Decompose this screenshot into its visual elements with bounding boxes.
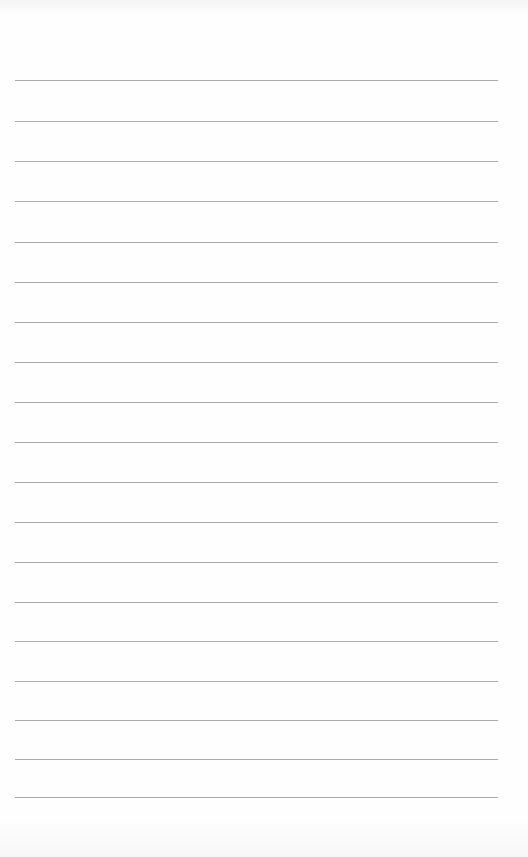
- ruled-line: [15, 482, 498, 483]
- ruled-line: [15, 322, 498, 323]
- ruled-line: [15, 402, 498, 403]
- ruled-line: [15, 797, 498, 798]
- ruled-line: [15, 80, 498, 81]
- ruled-line: [15, 161, 498, 162]
- ruled-line: [15, 522, 498, 523]
- ruled-line: [15, 759, 498, 760]
- scan-bleed-top: [0, 0, 528, 14]
- ruled-line: [15, 641, 498, 642]
- lined-paper-page: [0, 0, 528, 857]
- ruled-line: [15, 201, 498, 202]
- ruled-line: [15, 362, 498, 363]
- ruled-line: [15, 121, 498, 122]
- ruled-line: [15, 602, 498, 603]
- ruled-line: [15, 562, 498, 563]
- ruled-line: [15, 242, 498, 243]
- ruled-line: [15, 681, 498, 682]
- ruled-line: [15, 720, 498, 721]
- ruled-line: [15, 282, 498, 283]
- ruled-line: [15, 442, 498, 443]
- scan-bleed-bottom: [0, 817, 528, 857]
